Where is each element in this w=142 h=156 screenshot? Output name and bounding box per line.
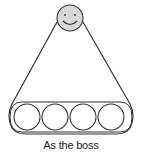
member-circle-2	[42, 104, 68, 130]
triangle-outline	[9, 22, 133, 134]
member-circle-3	[70, 104, 96, 130]
member-circle-4	[98, 104, 124, 130]
diagram-caption: As the boss	[0, 139, 142, 151]
boss-diagram	[0, 0, 142, 156]
smiley-face-icon	[57, 5, 83, 31]
member-circle-1	[14, 104, 40, 130]
group-band	[10, 102, 132, 132]
